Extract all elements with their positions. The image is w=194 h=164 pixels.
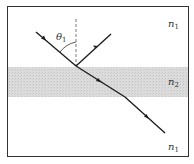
diagram-canvas <box>0 0 194 164</box>
top-medium-label: n1 <box>168 19 179 31</box>
medium-n2-band <box>8 67 188 97</box>
refraction-diagram: θ1 n1 n2 n1 <box>0 0 194 164</box>
middle-medium-label: n2 <box>168 77 179 89</box>
angle-label: θ1 <box>56 32 67 44</box>
bottom-medium-label: n1 <box>168 142 179 154</box>
